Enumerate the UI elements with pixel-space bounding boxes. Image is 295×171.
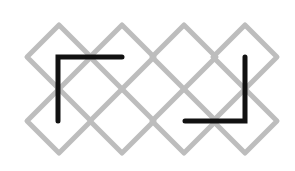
diamond-lattice-diagram <box>0 0 295 171</box>
diamond-r2-c2 <box>90 89 154 153</box>
diamond-r1-c3 <box>152 25 216 89</box>
diamond-lattice <box>27 25 277 153</box>
bottom-right-bracket <box>185 57 245 121</box>
top-left-bracket <box>58 57 122 121</box>
corner-brackets <box>58 57 245 121</box>
diagram-canvas <box>0 0 295 171</box>
